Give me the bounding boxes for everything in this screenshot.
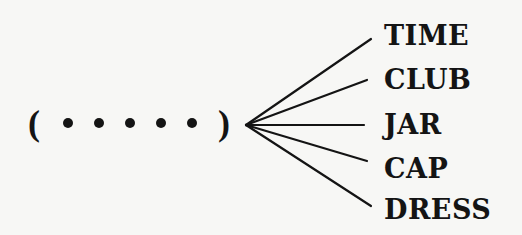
- line-to-dress: [246, 125, 371, 206]
- line-to-time: [246, 39, 371, 125]
- word-club: CLUB: [384, 66, 471, 93]
- word-jar: JAR: [384, 111, 442, 138]
- word-cap: CAP: [384, 155, 448, 182]
- word-dress: DRESS: [384, 196, 491, 223]
- line-to-club: [246, 80, 367, 125]
- line-to-cap: [246, 125, 367, 161]
- word-time: TIME: [384, 22, 469, 49]
